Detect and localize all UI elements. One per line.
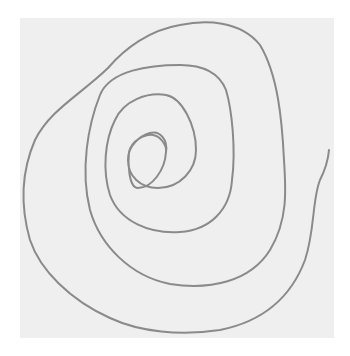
spiral-line — [24, 22, 329, 332]
spiral-drawing — [0, 0, 350, 356]
